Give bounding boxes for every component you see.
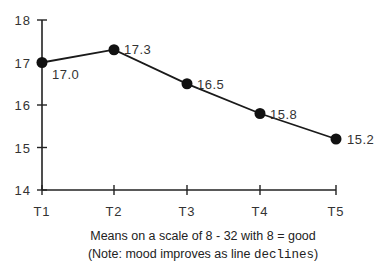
data-series [37, 44, 342, 144]
data-value-label: 15.2 [347, 132, 374, 147]
data-point-marker [182, 78, 193, 89]
series-line [42, 50, 336, 139]
data-value-label: 17.0 [52, 67, 79, 82]
data-value-label: 17.3 [124, 42, 151, 57]
data-value-label: 15.8 [270, 107, 297, 122]
data-point-marker [331, 134, 342, 145]
x-tick-label: T2 [105, 204, 122, 219]
x-tick-label: T5 [327, 204, 344, 219]
note-caption: (Note: mood improves as line declines) [88, 247, 318, 262]
data-value-label: 16.5 [197, 77, 224, 92]
y-tick-label: 14 [15, 183, 31, 198]
data-point-marker [109, 44, 120, 55]
x-axis: T1T2T3T4T5 [33, 185, 344, 219]
data-point-marker [255, 108, 266, 119]
x-tick-label: T3 [178, 204, 195, 219]
y-axis: 1415161718 [15, 13, 47, 198]
note-mono-word: declines [254, 248, 314, 262]
x-tick-label: T1 [33, 204, 50, 219]
data-point-marker [37, 57, 48, 68]
y-tick-label: 18 [15, 13, 31, 28]
x-axis-caption: Means on a scale of 8 - 32 with 8 = good [90, 229, 316, 243]
y-tick-label: 17 [15, 56, 31, 71]
y-tick-label: 16 [15, 98, 31, 113]
note-prefix: (Note: mood improves as line [88, 247, 254, 261]
note-suffix: ) [314, 247, 318, 261]
y-tick-label: 15 [15, 141, 31, 156]
line-chart: 1415161718 T1T2T3T4T5 17.017.316.515.815… [0, 0, 383, 268]
x-tick-label: T4 [251, 204, 268, 219]
